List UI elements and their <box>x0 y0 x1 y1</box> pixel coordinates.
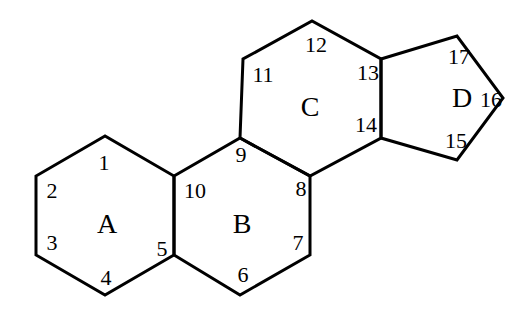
atom-number-16: 16 <box>480 87 502 112</box>
ring-label-c: C <box>301 91 320 122</box>
atom-number-13: 13 <box>357 60 379 85</box>
atom-number-2: 2 <box>47 178 58 203</box>
atom-number-6: 6 <box>238 262 249 287</box>
ring-label-a: A <box>97 208 118 239</box>
atom-number-10: 10 <box>184 178 206 203</box>
atom-number-8: 8 <box>296 176 307 201</box>
atom-number-7: 7 <box>293 230 304 255</box>
atom-number-5: 5 <box>157 236 168 261</box>
atom-number-15: 15 <box>445 128 467 153</box>
ring-label-d: D <box>452 82 472 113</box>
atom-number-11: 11 <box>252 62 273 87</box>
atom-number-1: 1 <box>99 150 110 175</box>
atom-number-17: 17 <box>448 44 470 69</box>
steroid-diagram: ABCD 1234567891011121314151617 <box>0 0 527 312</box>
ring-label-b: B <box>233 208 252 239</box>
atom-number-14: 14 <box>355 112 377 137</box>
atom-number-9: 9 <box>236 142 247 167</box>
atom-number-12: 12 <box>305 32 327 57</box>
atom-number-3: 3 <box>47 230 58 255</box>
atom-number-4: 4 <box>101 265 112 290</box>
